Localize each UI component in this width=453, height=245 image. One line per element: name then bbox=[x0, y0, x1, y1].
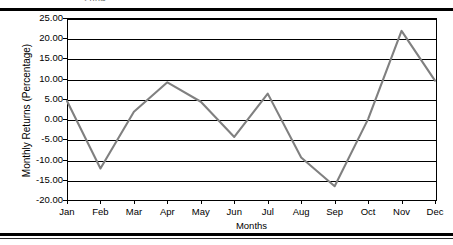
y-axis-title: Monthly Returns (Percentage) bbox=[21, 21, 32, 201]
x-axis-title: Months bbox=[67, 220, 436, 231]
gridline bbox=[68, 19, 436, 20]
y-axis-tick-label: 25.00 bbox=[5, 13, 63, 23]
y-axis-tick-label: 0.00 bbox=[5, 114, 63, 124]
gridline bbox=[68, 100, 436, 101]
x-axis-tick-mark bbox=[167, 200, 168, 204]
bottom-horizontal-rule-thin bbox=[0, 238, 453, 239]
x-axis-tick-mark bbox=[100, 200, 101, 204]
x-axis-tick-mark bbox=[368, 200, 369, 204]
gridline bbox=[68, 120, 436, 121]
gridline bbox=[68, 181, 436, 182]
top-horizontal-rule bbox=[0, 8, 453, 11]
x-axis-tick-mark bbox=[134, 200, 135, 204]
gridline bbox=[68, 80, 436, 81]
chart-figure: 2004 25.0020.0015.0010.005.000.00-5.00-1… bbox=[0, 0, 453, 245]
gridline bbox=[68, 59, 436, 60]
y-axis-tick-label: -5.00 bbox=[5, 134, 63, 144]
plot-area bbox=[67, 18, 437, 201]
x-axis-tick-mark bbox=[67, 200, 68, 204]
gridline bbox=[68, 39, 436, 40]
bottom-horizontal-rule bbox=[0, 233, 453, 236]
x-axis-tick-mark bbox=[301, 200, 302, 204]
x-axis-tick-mark bbox=[234, 200, 235, 204]
gridline bbox=[68, 140, 436, 141]
y-axis-tick-label: 10.00 bbox=[5, 74, 63, 84]
y-axis-tick-label: 20.00 bbox=[5, 33, 63, 43]
x-axis-tick-mark bbox=[435, 200, 436, 204]
gridline bbox=[68, 161, 436, 162]
y-axis-tick-label: -20.00 bbox=[5, 195, 63, 205]
x-axis-tick-mark bbox=[201, 200, 202, 204]
x-axis-tick-mark bbox=[402, 200, 403, 204]
x-axis-tick-mark bbox=[268, 200, 269, 204]
x-axis-line bbox=[67, 200, 436, 201]
y-axis-tick-label: 5.00 bbox=[5, 94, 63, 104]
y-axis-tick-label: 15.00 bbox=[5, 53, 63, 63]
y-axis-tick-label: -15.00 bbox=[5, 175, 63, 185]
top-caption-fragment: 2004 bbox=[84, 0, 106, 1]
x-axis-tick-mark bbox=[335, 200, 336, 204]
y-axis-tick-label: -10.00 bbox=[5, 155, 63, 165]
x-axis-tick-label-dec: Dec bbox=[415, 206, 453, 217]
